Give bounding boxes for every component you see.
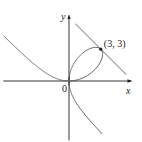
origin-label: 0 [62,83,67,94]
y-axis-label: y [60,11,66,22]
folium-diagram: y x 0 (3, 3) [0,0,142,142]
point-label: (3, 3) [104,38,126,50]
folium-curve [4,36,103,134]
tangent-point [99,48,102,51]
x-axis-label: x [125,85,131,96]
